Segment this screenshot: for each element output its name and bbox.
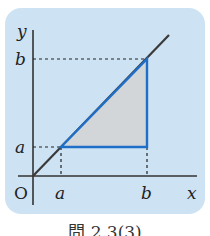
y-axis-label: y bbox=[16, 21, 27, 41]
y-tick-a: a bbox=[15, 137, 25, 157]
figure-caption: 問 2.3(3) bbox=[0, 222, 210, 236]
origin-label: O bbox=[14, 183, 28, 203]
x-axis-label: x bbox=[187, 183, 197, 203]
y-tick-b: b bbox=[15, 49, 26, 69]
x-tick-b: b bbox=[141, 183, 152, 203]
graph: y b a O a b x bbox=[0, 0, 210, 236]
shaded-triangle bbox=[61, 59, 147, 147]
x-tick-a: a bbox=[55, 183, 65, 203]
